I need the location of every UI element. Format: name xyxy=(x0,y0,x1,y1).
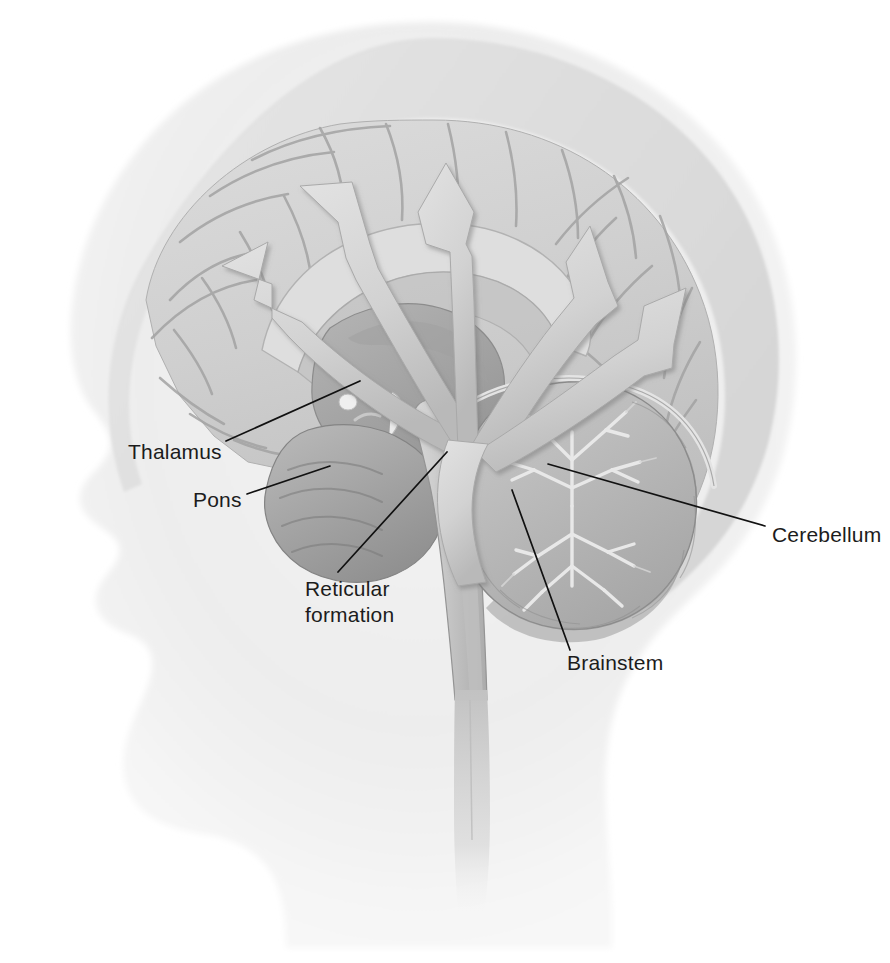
label-pons: Pons xyxy=(193,488,242,511)
label-brainstem: Brainstem xyxy=(567,651,663,674)
brain-diagram-figure: Thalamus Pons Reticular formation Cerebe… xyxy=(0,0,890,963)
label-reticular-formation-line1: Reticular xyxy=(305,577,390,600)
label-cerebellum: Cerebellum xyxy=(772,523,881,546)
label-thalamus: Thalamus xyxy=(128,440,222,463)
label-reticular-formation-line2: formation xyxy=(305,603,394,626)
diagram-canvas: Thalamus Pons Reticular formation Cerebe… xyxy=(0,0,890,963)
